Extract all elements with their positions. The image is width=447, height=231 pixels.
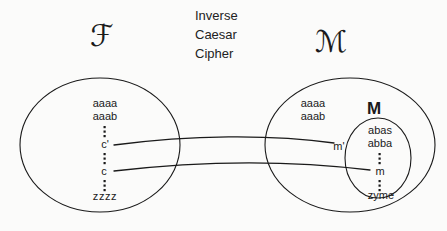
vertical-ellipsis-icon <box>104 126 106 137</box>
list-item: c' <box>101 138 109 150</box>
inverse-caesar-cipher-diagram: Inverse Caesar Cipher ℱ ℳ aaaa aaab c' c <box>0 0 447 231</box>
list-item: zyme <box>368 189 394 201</box>
list-item: aaaa <box>301 97 326 109</box>
script-capital-c-symbol: ℱ <box>90 18 114 53</box>
list-item: aaab <box>301 110 325 122</box>
title-line-2: Caesar <box>195 27 238 42</box>
script-capital-m-symbol: ℳ <box>315 24 347 59</box>
list-item: aaaa <box>93 97 118 109</box>
list-item: m <box>375 165 384 177</box>
list-item: m' <box>333 140 344 152</box>
title-line-3: Cipher <box>195 46 234 61</box>
meaningful-set-label: M <box>367 99 381 118</box>
diagram-title: Inverse Caesar Cipher <box>195 8 238 61</box>
vertical-ellipsis-icon <box>104 153 106 164</box>
list-item: abas <box>368 124 392 136</box>
list-item: abba <box>368 137 393 149</box>
list-item: aaab <box>93 110 117 122</box>
title-line-1: Inverse <box>195 8 238 23</box>
list-item: c <box>101 165 107 177</box>
list-item: zzzz <box>93 190 117 202</box>
vertical-ellipsis-icon <box>379 153 381 164</box>
